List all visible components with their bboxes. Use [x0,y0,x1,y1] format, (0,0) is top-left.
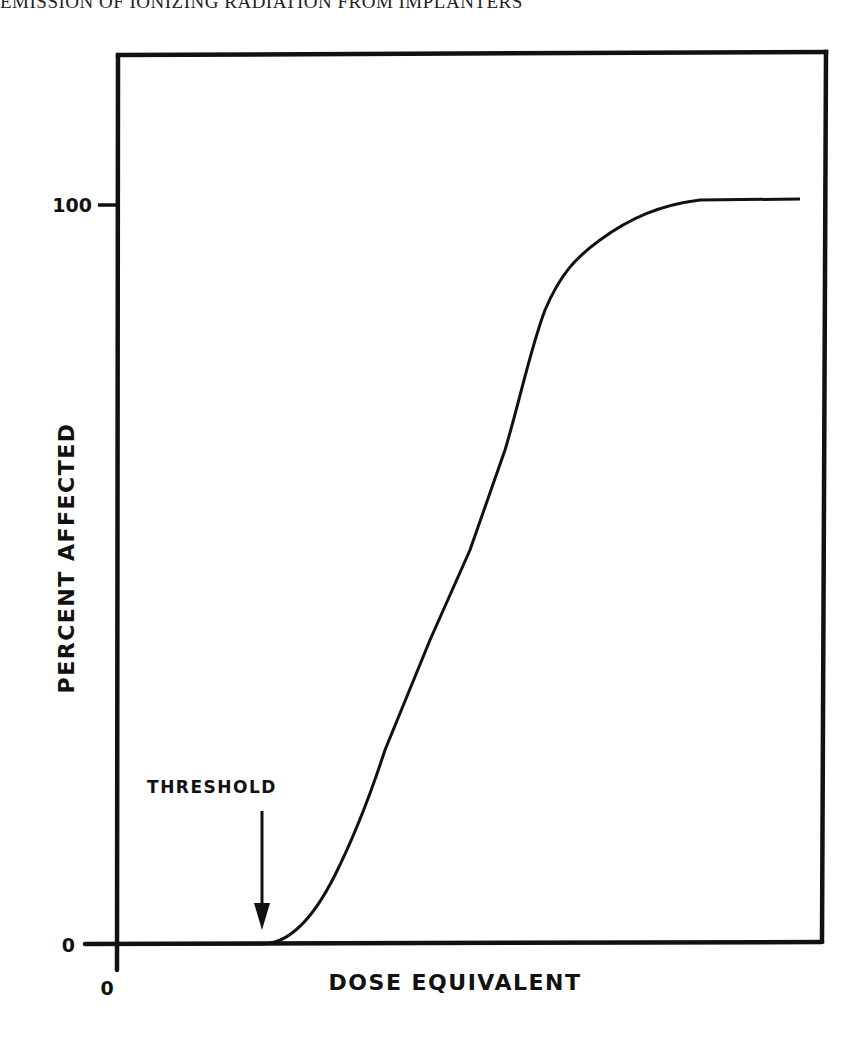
y-tick-label-0: 0 [62,934,75,956]
y-axis [117,55,118,970]
y-tick-label-100: 100 [52,194,92,216]
dose-response-chart: 100 0 0 DOSE EQUIVALENT PERCENT AFFECTED… [0,0,867,1042]
plot-frame [85,52,826,970]
x-tick-label-0: 0 [100,977,113,999]
threshold-annotation: THRESHOLD [147,777,277,930]
arrow-down-icon [254,903,270,930]
x-axis-label: DOSE EQUIVALENT [329,970,582,995]
threshold-label: THRESHOLD [147,777,277,797]
y-axis-label: PERCENT AFFECTED [54,423,79,694]
dose-response-curve [118,199,800,944]
